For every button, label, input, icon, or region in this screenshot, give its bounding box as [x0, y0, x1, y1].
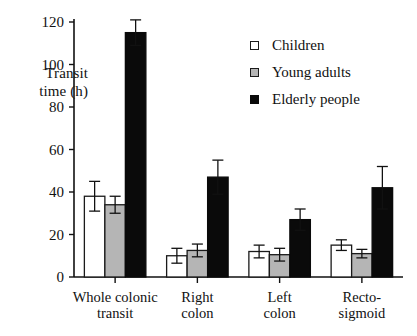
- y-axis-tick-label: 40: [22, 185, 64, 200]
- x-axis-tick-label: Recto- sigmoid: [307, 289, 417, 321]
- y-axis-tick-label: 120: [22, 15, 64, 30]
- black-square-icon: [250, 95, 259, 104]
- legend-label-elderly-people: Elderly people: [272, 92, 360, 107]
- chart-legend: Children Young adults Elderly people: [250, 32, 360, 113]
- legend-label-children: Children: [272, 38, 325, 53]
- white-square-icon: [250, 41, 259, 50]
- y-axis-tick-label: 0: [22, 270, 64, 285]
- legend-item-children: Children: [250, 32, 360, 59]
- legend-item-young-adults: Young adults: [250, 59, 360, 86]
- gray-square-icon: [250, 68, 259, 77]
- y-axis-tick-label: 100: [22, 57, 64, 72]
- legend-item-elderly-people: Elderly people: [250, 86, 360, 113]
- bar: [125, 33, 146, 277]
- y-axis-tick-label: 80: [22, 100, 64, 115]
- bar: [105, 205, 126, 277]
- legend-label-young-adults: Young adults: [272, 65, 351, 80]
- bar-chart-figure: Transit time (h) 020406080100120 Whole c…: [0, 0, 417, 336]
- y-axis-tick-label: 60: [22, 142, 64, 157]
- y-axis-tick-label: 20: [22, 227, 64, 242]
